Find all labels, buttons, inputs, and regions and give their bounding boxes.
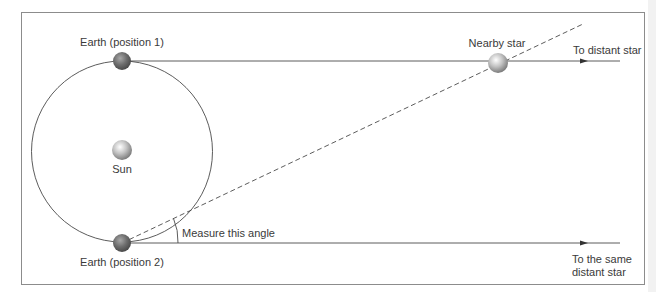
nearby-star-icon xyxy=(488,53,508,73)
earth-position-2-icon xyxy=(113,234,131,252)
arrow-icon-bottom xyxy=(580,241,588,246)
arrow-icon-top xyxy=(580,59,588,64)
label-to-distant-star: To distant star xyxy=(573,44,641,57)
earth-position-1-icon xyxy=(113,52,131,70)
label-nearby-star: Nearby star xyxy=(469,37,526,50)
label-to-same-distant-star-1: To the same xyxy=(572,253,632,266)
dashed-sightline xyxy=(122,24,583,243)
label-earth-position-1: Earth (position 1) xyxy=(80,36,164,49)
label-sun: Sun xyxy=(112,163,132,176)
label-measure-angle: Measure this angle xyxy=(182,227,275,240)
angle-arc xyxy=(174,219,179,244)
label-earth-position-2: Earth (position 2) xyxy=(80,256,164,269)
sun-icon xyxy=(112,140,132,160)
label-to-same-distant-star-2: distant star xyxy=(572,266,626,279)
